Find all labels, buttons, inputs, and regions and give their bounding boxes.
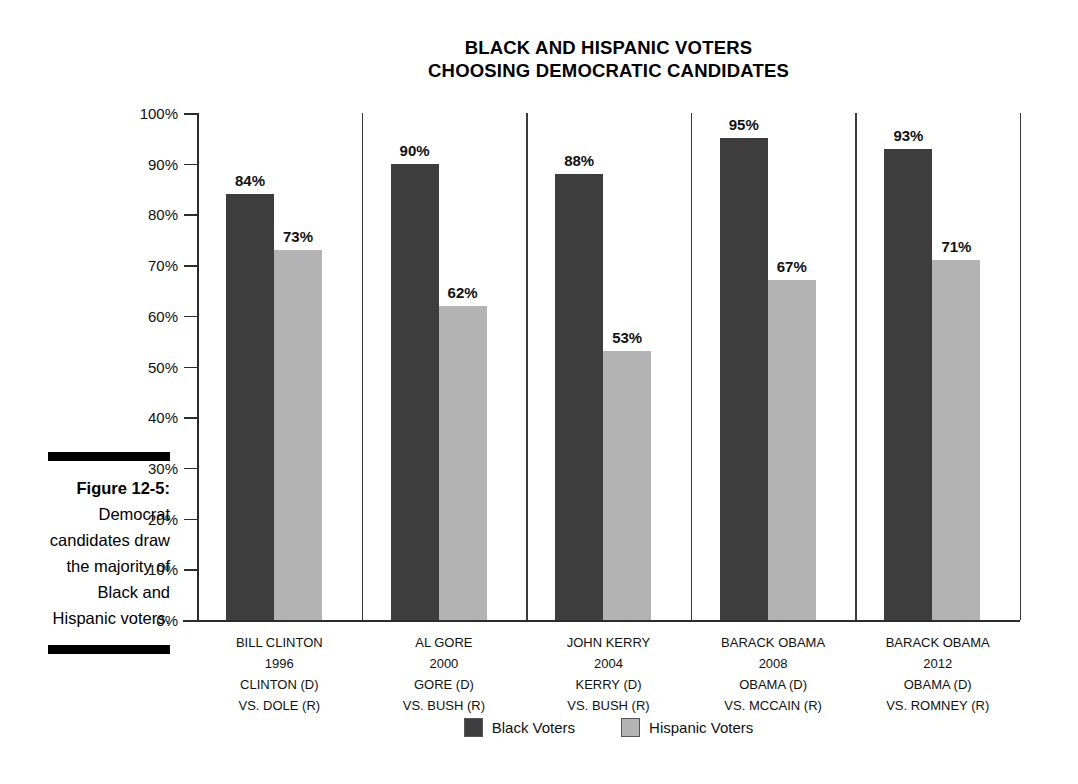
y-tick-label: 20% bbox=[148, 510, 178, 527]
bar-black-voters-3[interactable]: 88% bbox=[555, 174, 603, 620]
group-label-year: 2004 bbox=[526, 653, 691, 674]
group-label-year: 1996 bbox=[197, 653, 362, 674]
y-tick-mark bbox=[184, 113, 197, 115]
y-tick-label: 10% bbox=[148, 561, 178, 578]
group-label-candidate: JOHN KERRY bbox=[526, 632, 691, 653]
group-label-republican: VS. BUSH (R) bbox=[526, 695, 691, 716]
group-label-candidate: BARACK OBAMA bbox=[691, 632, 856, 653]
bar-group-3: 88%53% bbox=[526, 113, 691, 620]
group-label-candidate: BILL CLINTON bbox=[197, 632, 362, 653]
group-label-democrat: KERRY (D) bbox=[526, 674, 691, 695]
plot-area: 100%90%80%70%60%50%40%30%20%10%0% 84%73%… bbox=[197, 113, 1020, 620]
group-label-democrat: CLINTON (D) bbox=[197, 674, 362, 695]
y-tick-mark bbox=[184, 569, 197, 571]
bar-value-label: 84% bbox=[235, 172, 265, 189]
bar-value-label: 67% bbox=[777, 258, 807, 275]
bar-value-label: 53% bbox=[612, 329, 642, 346]
legend-label: Hispanic Voters bbox=[649, 719, 753, 736]
bar-group-5: 93%71% bbox=[855, 113, 1020, 620]
bar-hispanic-voters-3[interactable]: 53% bbox=[603, 351, 651, 620]
y-tick-label: 100% bbox=[140, 105, 178, 122]
group-label-democrat: OBAMA (D) bbox=[855, 674, 1020, 695]
bar-value-label: 95% bbox=[729, 116, 759, 133]
group-label-2: AL GORE2000GORE (D)VS. BUSH (R) bbox=[362, 632, 527, 716]
legend-swatch-icon bbox=[464, 718, 483, 737]
legend-item-hispanic-voters[interactable]: Hispanic Voters bbox=[621, 718, 753, 737]
y-tick-label: 70% bbox=[148, 257, 178, 274]
group-label-1: BILL CLINTON1996CLINTON (D)VS. DOLE (R) bbox=[197, 632, 362, 716]
group-label-democrat: GORE (D) bbox=[362, 674, 527, 695]
bar-value-label: 62% bbox=[448, 284, 478, 301]
y-tick-label: 30% bbox=[148, 459, 178, 476]
bar-hispanic-voters-5[interactable]: 71% bbox=[932, 260, 980, 620]
bar-group-2: 90%62% bbox=[362, 113, 527, 620]
bar-value-label: 73% bbox=[283, 228, 313, 245]
bar-group-4: 95%67% bbox=[691, 113, 856, 620]
x-axis-line bbox=[183, 620, 1020, 622]
legend-swatch-icon bbox=[621, 718, 640, 737]
y-tick-mark bbox=[184, 519, 197, 521]
y-tick-mark bbox=[184, 417, 197, 419]
chart-legend: Black VotersHispanic Voters bbox=[197, 718, 1020, 737]
y-tick-mark bbox=[184, 265, 197, 267]
group-label-4: BARACK OBAMA2008OBAMA (D)VS. MCCAIN (R) bbox=[691, 632, 856, 716]
bar-black-voters-1[interactable]: 84% bbox=[226, 194, 274, 620]
bar-chart: BLACK AND HISPANIC VOTERS CHOOSING DEMOC… bbox=[0, 0, 1078, 784]
bar-black-voters-4[interactable]: 95% bbox=[720, 138, 768, 620]
y-tick-mark bbox=[184, 164, 197, 166]
group-label-candidate: BARACK OBAMA bbox=[855, 632, 1020, 653]
bar-value-label: 90% bbox=[400, 142, 430, 159]
legend-label: Black Voters bbox=[492, 719, 575, 736]
bar-hispanic-voters-1[interactable]: 73% bbox=[274, 250, 322, 620]
bar-value-label: 71% bbox=[941, 238, 971, 255]
group-label-candidate: AL GORE bbox=[362, 632, 527, 653]
chart-title-line-1: BLACK AND HISPANIC VOTERS bbox=[197, 36, 1020, 59]
y-tick-label: 90% bbox=[148, 155, 178, 172]
group-label-year: 2008 bbox=[691, 653, 856, 674]
bar-value-label: 88% bbox=[564, 152, 594, 169]
y-tick-label: 40% bbox=[148, 409, 178, 426]
bar-group-1: 84%73% bbox=[197, 113, 362, 620]
chart-title: BLACK AND HISPANIC VOTERS CHOOSING DEMOC… bbox=[197, 36, 1020, 82]
bar-hispanic-voters-4[interactable]: 67% bbox=[768, 280, 816, 620]
group-label-3: JOHN KERRY2004KERRY (D)VS. BUSH (R) bbox=[526, 632, 691, 716]
y-tick-mark bbox=[184, 620, 197, 622]
group-separator-5 bbox=[1020, 113, 1021, 620]
y-tick-label: 50% bbox=[148, 358, 178, 375]
bar-value-label: 93% bbox=[893, 127, 923, 144]
bar-black-voters-5[interactable]: 93% bbox=[884, 149, 932, 621]
y-tick-mark bbox=[184, 316, 197, 318]
y-tick-mark bbox=[184, 468, 197, 470]
y-tick-label: 80% bbox=[148, 206, 178, 223]
bar-hispanic-voters-2[interactable]: 62% bbox=[439, 306, 487, 620]
group-label-republican: VS. DOLE (R) bbox=[197, 695, 362, 716]
y-tick-mark bbox=[184, 367, 197, 369]
group-label-year: 2000 bbox=[362, 653, 527, 674]
chart-title-line-2: CHOOSING DEMOCRATIC CANDIDATES bbox=[197, 59, 1020, 82]
group-label-republican: VS. BUSH (R) bbox=[362, 695, 527, 716]
y-tick-label: 60% bbox=[148, 307, 178, 324]
bar-black-voters-2[interactable]: 90% bbox=[391, 164, 439, 620]
legend-item-black-voters[interactable]: Black Voters bbox=[464, 718, 575, 737]
group-label-year: 2012 bbox=[855, 653, 1020, 674]
group-label-republican: VS. ROMNEY (R) bbox=[855, 695, 1020, 716]
y-tick-label: 0% bbox=[156, 612, 178, 629]
y-tick-mark bbox=[184, 214, 197, 216]
group-label-democrat: OBAMA (D) bbox=[691, 674, 856, 695]
group-label-5: BARACK OBAMA2012OBAMA (D)VS. ROMNEY (R) bbox=[855, 632, 1020, 716]
group-label-republican: VS. MCCAIN (R) bbox=[691, 695, 856, 716]
